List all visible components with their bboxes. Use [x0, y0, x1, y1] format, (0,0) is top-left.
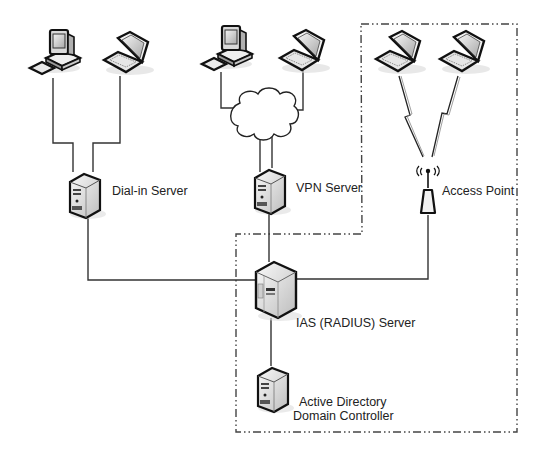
- ias-server-label: IAS (RADIUS) Server: [296, 316, 415, 330]
- access-point-label: Access Point: [442, 184, 515, 198]
- laptop-icon: [376, 31, 426, 74]
- desktop-computer-icon: [200, 26, 252, 70]
- dialin-server-icon: [70, 174, 106, 219]
- network-diagram: Dial-in Server VPN Server Access Point I…: [0, 0, 545, 464]
- laptop-icon: [440, 31, 490, 74]
- wireless-access-point-icon: [417, 166, 440, 213]
- ad-controller-label-line1: Active Directory: [299, 395, 387, 409]
- ias-server-icon: [256, 262, 302, 321]
- ad-controller-label-line2: Domain Controller: [293, 409, 394, 423]
- ad-controller-icon: [258, 368, 294, 413]
- wireless-links: [399, 76, 460, 157]
- desktop-computer-icon: [28, 30, 80, 74]
- vpn-server-label: VPN Server: [296, 181, 362, 195]
- dialin-server-label: Dial-in Server: [112, 184, 188, 198]
- laptop-icon: [104, 32, 154, 75]
- laptop-icon: [280, 30, 330, 73]
- cloud-icon: [231, 88, 299, 140]
- vpn-server-icon: [255, 170, 291, 215]
